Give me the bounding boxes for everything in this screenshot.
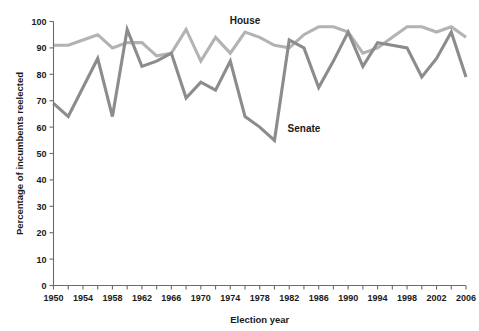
x-tick-label: 1970 [191,293,211,303]
y-tick-label: 20 [36,228,46,238]
y-tick-label: 90 [36,43,46,53]
x-tick-label: 1958 [102,293,122,303]
x-tick-label: 1990 [338,293,358,303]
y-tick-label: 30 [36,202,46,212]
x-tick-label: 1950 [43,293,63,303]
y-tick-label: 60 [36,123,46,133]
x-tick-label: 1966 [161,293,181,303]
x-tick-label: 1982 [279,293,299,303]
x-tick-label: 1994 [368,293,388,303]
y-tick-label: 0 [41,281,46,291]
x-tick-label: 1998 [397,293,417,303]
axes-group [54,22,467,286]
y-tick-label: 80 [36,70,46,80]
chart-container: 0102030405060708090100 19501954195819621… [0,0,479,331]
x-tick-label: 1962 [132,293,152,303]
y-tick-label: 50 [36,149,46,159]
y-tick-label: 40 [36,175,46,185]
x-tick-label: 1954 [73,293,93,303]
series-line-house [54,27,467,61]
x-tick-label: 1986 [309,293,329,303]
x-axis-ticks: 1950195419581962196619701974197819821986… [43,286,476,304]
y-axis-title: Percentage of incumbents reelected [14,72,25,235]
line-chart: 0102030405060708090100 19501954195819621… [0,0,479,331]
series-label-senate: Senate [288,123,321,134]
series-group [54,27,467,141]
x-tick-label: 2002 [427,293,447,303]
y-tick-label: 70 [36,96,46,106]
y-tick-label: 100 [31,17,46,27]
x-axis-title: Election year [230,314,289,325]
y-tick-label: 10 [36,255,46,265]
x-tick-label: 2006 [456,293,476,303]
x-tick-label: 1978 [250,293,270,303]
x-tick-label: 1974 [220,293,240,303]
y-axis-ticks: 0102030405060708090100 [31,17,53,291]
series-label-house: House [230,15,261,26]
